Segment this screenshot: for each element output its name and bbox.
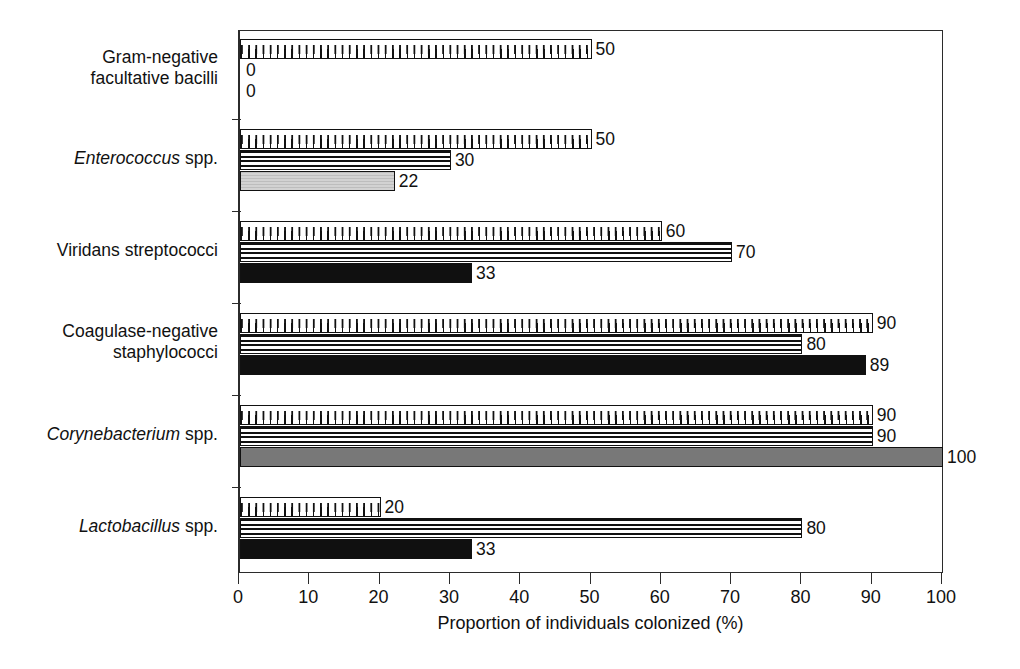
bar-value-label: 90	[877, 405, 896, 425]
x-axis-tick-label: 40	[509, 586, 529, 608]
x-axis-tick	[941, 573, 942, 584]
x-axis-tick-label: 30	[439, 586, 459, 608]
bar-value-label: 60	[666, 221, 685, 241]
species-suffix: spp.	[180, 424, 218, 444]
bar	[240, 171, 395, 191]
category-label-3: Coagulase-negativestaphylococci	[0, 321, 218, 363]
x-axis-tick	[871, 573, 872, 584]
x-axis-tick	[590, 573, 591, 584]
x-axis-tick-label: 20	[369, 586, 389, 608]
genus-name: Lactobacillus	[79, 516, 180, 536]
bar	[240, 426, 873, 446]
bar	[240, 39, 592, 59]
x-axis-tick-label: 50	[579, 586, 599, 608]
y-axis-tick	[232, 395, 241, 396]
species-suffix: spp.	[180, 148, 218, 168]
bar	[240, 497, 381, 517]
bar-value-label: 0	[246, 60, 256, 80]
x-axis-tick-label: 100	[926, 586, 956, 608]
label-line-1: Coagulase-negative	[0, 321, 218, 342]
bar-value-label: 30	[455, 150, 474, 170]
category-label-5: Lactobacillus spp.	[0, 516, 218, 537]
x-axis-tick	[379, 573, 380, 584]
bar	[240, 221, 662, 241]
bar-chart-figure: Gram-negativefacultative bacilliEnteroco…	[0, 0, 1020, 669]
plot-area: 50005030226070339080899090100208033	[238, 30, 943, 573]
y-axis-tick	[232, 487, 241, 488]
bar	[240, 129, 592, 149]
bar-value-label: 33	[476, 263, 495, 283]
x-axis-tick	[800, 573, 801, 584]
bar-value-label: 20	[385, 497, 404, 517]
bar	[240, 242, 732, 262]
species-suffix: spp.	[180, 516, 218, 536]
bar-value-label: 80	[806, 518, 825, 538]
y-axis-tick	[232, 211, 241, 212]
bar	[240, 405, 873, 425]
x-axis-tick-label: 70	[720, 586, 740, 608]
category-label-0: Gram-negativefacultative bacilli	[0, 47, 218, 89]
x-axis	[238, 573, 943, 585]
label-line-2: staphylococci	[0, 342, 218, 363]
category-label-1: Enterococcus spp.	[0, 148, 218, 169]
bar-value-label: 33	[476, 539, 495, 559]
bar	[240, 150, 451, 170]
x-axis-tick-labels: 0102030405060708090100	[238, 586, 943, 610]
x-axis-tick	[730, 573, 731, 584]
bar-value-label: 100	[947, 447, 976, 467]
category-label-column: Gram-negativefacultative bacilliEnteroco…	[0, 30, 228, 573]
bar	[240, 539, 472, 559]
bar-value-label: 50	[596, 39, 615, 59]
bar-value-label: 0	[246, 81, 256, 101]
x-axis-tick-label: 0	[233, 586, 243, 608]
y-axis-tick	[232, 303, 241, 304]
genus-name: Enterococcus	[74, 148, 180, 168]
bar	[240, 355, 866, 375]
bar	[240, 518, 802, 538]
y-axis-tick	[232, 119, 241, 120]
label-line-2: facultative bacilli	[0, 68, 218, 89]
category-label-2: Viridans streptococci	[0, 240, 218, 261]
bar	[240, 263, 472, 283]
bar	[240, 313, 873, 333]
bar-value-label: 80	[806, 334, 825, 354]
category-label-4: Corynebacterium spp.	[0, 424, 218, 445]
bar-value-label: 22	[399, 171, 418, 191]
x-axis-title: Proportion of individuals colonized (%)	[238, 613, 943, 634]
x-axis-tick	[660, 573, 661, 584]
label-line-1: Viridans streptococci	[0, 240, 218, 261]
bar	[240, 447, 943, 467]
x-axis-tick-label: 60	[650, 586, 670, 608]
bar-value-label: 70	[736, 242, 755, 262]
x-axis-tick-label: 90	[861, 586, 881, 608]
label-line-1: Gram-negative	[0, 47, 218, 68]
genus-name: Corynebacterium	[47, 424, 180, 444]
bar-value-label: 89	[870, 355, 889, 375]
bar-value-label: 90	[877, 313, 896, 333]
x-axis-tick	[519, 573, 520, 584]
x-axis-tick	[308, 573, 309, 584]
bar-value-label: 90	[877, 426, 896, 446]
bar	[240, 334, 802, 354]
x-axis-tick	[238, 573, 239, 584]
bar-value-label: 50	[596, 129, 615, 149]
x-axis-tick-label: 80	[790, 586, 810, 608]
x-axis-tick	[449, 573, 450, 584]
x-axis-tick-label: 10	[298, 586, 318, 608]
